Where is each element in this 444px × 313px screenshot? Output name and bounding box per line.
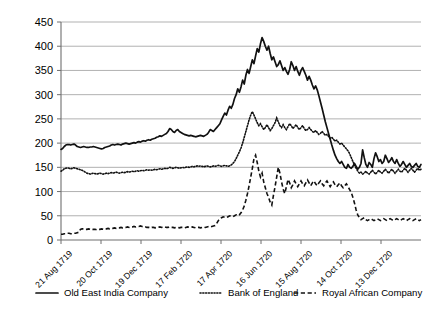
legend-label: Old East India Company [64,287,168,298]
y-axis-tick-label: 100 [35,186,53,198]
y-axis-tick-label: 300 [35,89,53,101]
legend-label: Bank of England [228,287,298,298]
y-axis-tick-label: 400 [35,40,53,52]
y-axis-tick-label: 450 [35,16,53,28]
chart-legend: Old East India CompanyBank of EnglandRoy… [36,287,422,298]
legend-label: Royal African Company [322,287,422,298]
y-axis-tick-label: 0 [47,234,53,246]
y-axis-tick-label: 150 [35,161,53,173]
y-axis-tick-label: 50 [41,210,53,222]
y-axis-tick-label: 250 [35,113,53,125]
y-axis-tick-label: 350 [35,64,53,76]
y-axis-tick-label: 200 [35,137,53,149]
stock-price-line-chart: 050100150200250300350400450 21 Aug 17192… [0,0,444,313]
